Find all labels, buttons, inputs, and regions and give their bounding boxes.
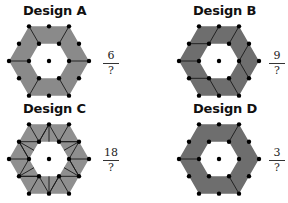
lattice-dot — [57, 139, 61, 143]
lattice-dot — [227, 139, 231, 143]
lattice-dot — [47, 24, 51, 28]
lattice-dot — [217, 191, 221, 195]
lattice-dot — [87, 157, 91, 161]
lattice-dot — [37, 76, 41, 80]
lattice-dot — [197, 191, 201, 195]
lattice-dot — [177, 157, 181, 161]
lattice-dot — [47, 122, 51, 126]
lattice-dot — [247, 41, 251, 45]
lattice-dot — [17, 139, 21, 143]
lattice-dot — [77, 139, 81, 143]
lattice-dot — [227, 76, 231, 80]
lattice-dot — [197, 157, 201, 161]
lattice-dot — [37, 174, 41, 178]
lattice-dot — [57, 174, 61, 178]
lattice-dot — [17, 41, 21, 45]
hexagon-designs — [0, 0, 288, 203]
lattice-dot — [207, 41, 211, 45]
lattice-dot — [237, 24, 241, 28]
lattice-dot — [17, 174, 21, 178]
lattice-dot — [197, 122, 201, 126]
lattice-dot — [57, 76, 61, 80]
lattice-dot — [257, 59, 261, 63]
lattice-dot — [7, 59, 11, 63]
lattice-dot — [27, 59, 31, 63]
lattice-dot — [47, 59, 51, 63]
lattice-dot — [27, 122, 31, 126]
lattice-dot — [197, 59, 201, 63]
lattice-dot — [27, 191, 31, 195]
lattice-dot — [187, 76, 191, 80]
lattice-dot — [67, 157, 71, 161]
lattice-dot — [237, 93, 241, 97]
lattice-dot — [177, 59, 181, 63]
lattice-dot — [187, 174, 191, 178]
lattice-dot — [27, 24, 31, 28]
lattice-dot — [77, 41, 81, 45]
lattice-dot — [207, 139, 211, 143]
lattice-dot — [247, 139, 251, 143]
lattice-dot — [87, 59, 91, 63]
lattice-dot — [217, 24, 221, 28]
lattice-dot — [217, 157, 221, 161]
lattice-dot — [247, 76, 251, 80]
lattice-dot — [207, 76, 211, 80]
lattice-dot — [7, 157, 11, 161]
lattice-dot — [247, 174, 251, 178]
lattice-dot — [187, 139, 191, 143]
lattice-dot — [67, 24, 71, 28]
lattice-dot — [227, 41, 231, 45]
lattice-dot — [197, 24, 201, 28]
lattice-dot — [217, 59, 221, 63]
lattice-dot — [67, 122, 71, 126]
lattice-dot — [67, 59, 71, 63]
lattice-dot — [237, 191, 241, 195]
lattice-dot — [77, 76, 81, 80]
lattice-dot — [207, 174, 211, 178]
lattice-dot — [217, 93, 221, 97]
lattice-dot — [187, 41, 191, 45]
lattice-dot — [237, 157, 241, 161]
lattice-dot — [57, 41, 61, 45]
lattice-dot — [37, 41, 41, 45]
lattice-dot — [227, 174, 231, 178]
lattice-dot — [77, 174, 81, 178]
lattice-dot — [17, 76, 21, 80]
lattice-dot — [47, 191, 51, 195]
lattice-dot — [67, 191, 71, 195]
lattice-dot — [257, 157, 261, 161]
lattice-dot — [37, 139, 41, 143]
lattice-dot — [47, 157, 51, 161]
lattice-dot — [237, 59, 241, 63]
lattice-dot — [237, 122, 241, 126]
lattice-dot — [217, 122, 221, 126]
lattice-dot — [67, 93, 71, 97]
lattice-dot — [27, 93, 31, 97]
lattice-dot — [27, 157, 31, 161]
lattice-dot — [197, 93, 201, 97]
lattice-dot — [47, 93, 51, 97]
